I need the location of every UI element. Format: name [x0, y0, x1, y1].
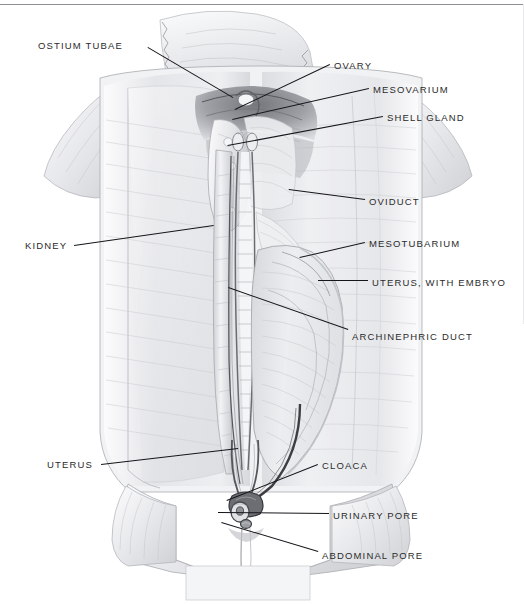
label-uterus-embryo: UTERUS, WITH EMBRYO — [372, 277, 506, 288]
label-archinephric-duct: ARCHINEPHRIC DUCT — [352, 331, 473, 342]
abdominal-pore — [228, 520, 264, 542]
label-shell-gland: SHELL GLAND — [387, 112, 465, 123]
anatomical-figure: OSTIUM TUBAEOVARYMESOVARIUMSHELL GLANDOV… — [0, 0, 524, 604]
label-kidney: KIDNEY — [25, 240, 67, 251]
label-ostium-tubae: OSTIUM TUBAE — [38, 40, 123, 51]
leader-line-uterus-embryo — [318, 280, 368, 281]
label-cloaca: CLOACA — [322, 460, 368, 471]
label-oviduct: OVIDUCT — [369, 196, 420, 207]
label-ovary: OVARY — [334, 60, 372, 71]
label-abdominal-pore: ABDOMINAL PORE — [322, 550, 423, 561]
label-mesovarium: MESOVARIUM — [373, 84, 449, 95]
label-urinary-pore: URINARY PORE — [333, 510, 419, 521]
label-mesotubarium: MESOTUBARIUM — [369, 238, 460, 249]
label-uterus: UTERUS — [47, 459, 93, 470]
